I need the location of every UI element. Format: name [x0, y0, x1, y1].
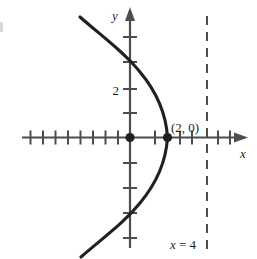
- y-axis-label: y: [110, 8, 118, 23]
- x-axis-arrowhead: [234, 133, 248, 143]
- graph-canvas: y x 2 (2, 0) x = 4: [0, 0, 257, 259]
- directrix-label-equation: = 4: [176, 237, 197, 252]
- axes-group: [22, 7, 248, 248]
- y-axis-arrowhead: [125, 7, 135, 21]
- scan-edge-artifact: [0, 22, 3, 32]
- directrix-label: x = 4: [169, 237, 197, 252]
- y-tick-label-2: 2: [113, 83, 120, 98]
- x-axis-label: x: [239, 146, 246, 161]
- origin-focus-point: [125, 133, 134, 142]
- vertex-label: (2, 0): [171, 120, 199, 135]
- parabola-figure: y x 2 (2, 0) x = 4: [0, 0, 257, 259]
